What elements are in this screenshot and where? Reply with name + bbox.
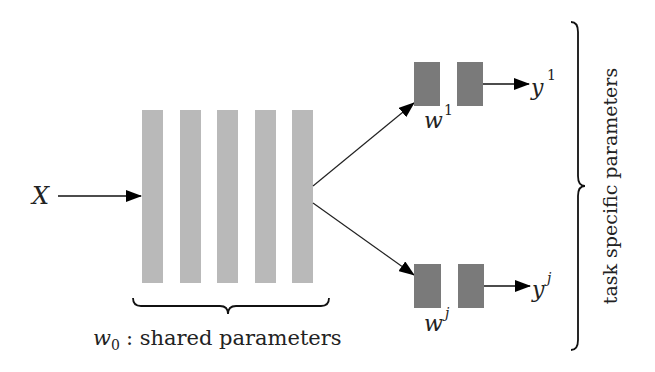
shared-label-sub: 0: [111, 337, 120, 353]
shared-label-text: : shared parameters: [126, 326, 342, 350]
weight-label-task1: w: [424, 108, 443, 133]
shared-layer: [180, 110, 201, 283]
task-specific-label: task specific parameters: [599, 68, 621, 304]
shared-layer: [292, 110, 313, 283]
output-label-taskj: y: [531, 277, 545, 302]
shared-label: w0: shared parameters: [93, 326, 342, 353]
output-sup-task1: 1: [547, 67, 556, 83]
shared-layer: [142, 110, 163, 283]
shared-layers: [142, 110, 313, 283]
shared-layer: [217, 110, 238, 283]
task-j-block: y j w j: [414, 264, 552, 336]
task-j-layer: [458, 264, 484, 308]
shared-brace: [133, 298, 329, 314]
weight-sup-task1: 1: [444, 102, 453, 118]
branch-arrow-taskj: [313, 203, 414, 275]
shared-label-var: w: [93, 326, 111, 350]
output-sup-taskj: j: [544, 270, 552, 286]
task-1-layer: [414, 62, 440, 106]
weight-label-taskj: w: [424, 311, 443, 336]
branch-arrow-task1: [313, 103, 414, 186]
task-1-block: y 1 w 1: [414, 62, 556, 133]
task-j-layer: [414, 264, 441, 308]
task-1-layer: [457, 62, 483, 106]
diagram: X y 1 w 1 y j w j w0: shared parameters …: [0, 0, 655, 372]
input-label: X: [30, 182, 50, 210]
weight-sup-taskj: j: [442, 305, 450, 321]
task-brace: [571, 22, 585, 350]
shared-layer: [255, 110, 276, 283]
output-label-task1: y: [530, 75, 544, 100]
